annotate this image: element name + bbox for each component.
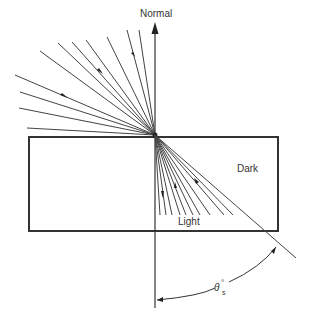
angle-arc xyxy=(157,288,215,300)
angle-subscript-label: s xyxy=(222,289,226,296)
normal-label: Normal xyxy=(140,8,172,19)
refracted-rays xyxy=(155,135,233,215)
dark-label: Dark xyxy=(237,163,259,174)
refraction-diagram: Normal Dark Light θ ° s xyxy=(0,0,309,324)
incident-arrow-icons xyxy=(60,52,135,98)
light-label: Light xyxy=(178,216,200,227)
critical-angle-ray xyxy=(155,135,296,258)
medium-rectangle xyxy=(29,137,278,231)
angle-arrow-right-icon xyxy=(271,247,276,254)
normal-arrow-icon xyxy=(152,22,159,34)
angle-degree-label: ° xyxy=(221,278,224,287)
angle-theta-label: θ xyxy=(214,282,220,293)
incident-rays xyxy=(15,30,155,135)
angle-arc-2 xyxy=(229,247,276,282)
